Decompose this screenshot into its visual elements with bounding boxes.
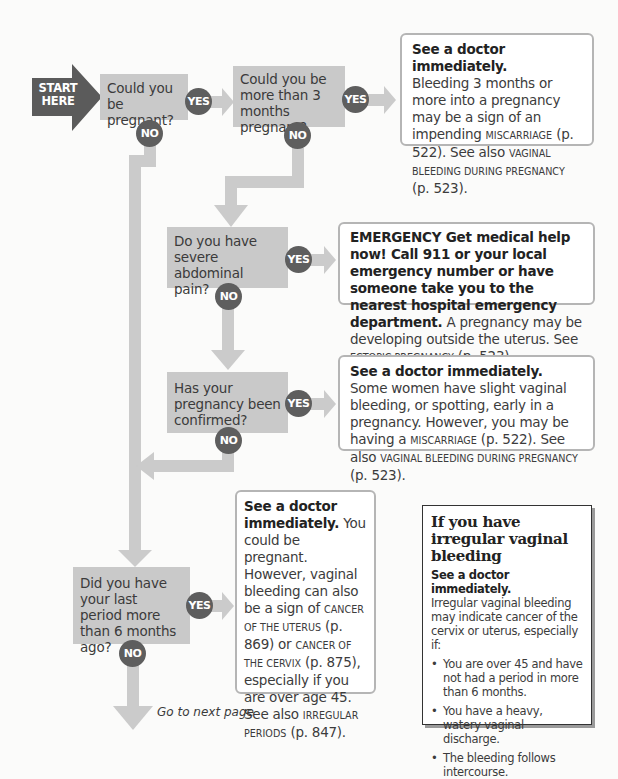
result-see-doctor-spotting: See a doctor immediately. Some women hav… — [338, 355, 595, 451]
arrow-down-icon — [113, 706, 153, 730]
result-emergency: EMERGENCY Get medical help now! Call 911… — [338, 222, 595, 305]
sidebar-intro: Irregular vaginal bleeding may indicate … — [431, 596, 583, 652]
yes-badge: YES — [186, 592, 213, 619]
start-label-2: HERE — [36, 95, 80, 108]
result-heading: See a doctor immediately. — [412, 41, 507, 74]
arrow-right-icon — [308, 390, 336, 418]
no-badge: NO — [215, 427, 242, 454]
result-see-doctor-miscarriage: See a doctor immediately. Bleeding 3 mon… — [400, 33, 594, 146]
result-heading: See a doctor immediately. — [350, 363, 543, 379]
list-item: You are over 45 and have not had a perio… — [431, 657, 583, 699]
result-heading: See a doctor immediately. — [244, 498, 339, 531]
yes-badge: YES — [342, 86, 369, 113]
question-more-than-3-months: Could you be more than 3 months pregnant… — [233, 66, 345, 127]
go-to-next-page-link[interactable]: Go to next page — [157, 705, 254, 719]
no-badge: NO — [215, 283, 242, 310]
arrow-right-icon — [308, 246, 336, 274]
start-here-marker: START HERE — [32, 64, 102, 131]
question-pregnancy-confirmed: Has your pregnancy been confirmed? — [167, 372, 288, 433]
connector — [225, 176, 237, 208]
arrow-right-icon — [210, 88, 234, 116]
sidebar-subtitle: See a doctor immediately. — [431, 568, 583, 596]
reference-link[interactable]: Miscarriage — [486, 130, 553, 141]
no-badge: NO — [284, 122, 311, 149]
question-last-period: Did you have your last period more than … — [73, 567, 190, 644]
question-could-be-pregnant: Could you be pregnant? — [100, 74, 188, 120]
yes-badge: YES — [285, 390, 312, 417]
sidebar-bullet-list: You are over 45 and have not had a perio… — [431, 657, 583, 779]
arrow-down-icon — [118, 540, 152, 567]
no-badge: NO — [136, 120, 163, 147]
reference-link[interactable]: Vaginal bleeding during pregnancy — [380, 453, 578, 464]
connector — [129, 155, 141, 550]
list-item: The bleeding follows intercourse. — [431, 751, 583, 779]
irregular-bleeding-sidebar: If you have irregular vaginal bleeding S… — [422, 505, 592, 725]
arrow-down-icon — [211, 350, 245, 372]
connector — [152, 460, 234, 472]
connector — [222, 305, 234, 355]
arrow-down-icon — [214, 205, 248, 229]
list-item: You have a heavy, watery vaginal dischar… — [431, 704, 583, 746]
yes-badge: YES — [285, 246, 312, 273]
reference-link[interactable]: Miscarriage — [410, 435, 477, 446]
sidebar-title: If you have irregular vaginal bleeding — [431, 514, 583, 565]
result-see-doctor-cancer: See a doctor immediately. You could be p… — [235, 490, 376, 694]
arrow-left-icon — [136, 452, 154, 480]
yes-badge: YES — [185, 88, 212, 115]
no-badge: NO — [119, 640, 146, 667]
connector — [127, 660, 139, 710]
arrow-right-icon — [366, 86, 396, 114]
question-abdominal-pain: Do you have severe abdominal pain? — [167, 227, 288, 288]
